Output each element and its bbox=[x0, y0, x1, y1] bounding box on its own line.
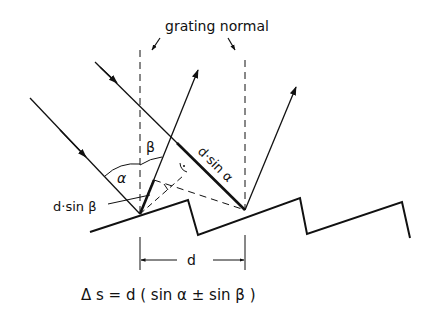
d-label: d bbox=[187, 252, 196, 268]
alpha-label: α bbox=[117, 170, 127, 186]
beta-label: β bbox=[146, 139, 155, 155]
incident-arrow-right-icon bbox=[100, 67, 117, 83]
right-angle-mark-alpha bbox=[180, 163, 187, 172]
grating-diagram: grating normal β α d·sin β d·sin α d Δ s… bbox=[0, 0, 435, 310]
grating-normal-label: grating normal bbox=[165, 18, 269, 34]
incident-arrow-left-icon bbox=[60, 130, 86, 157]
right-angle-dot bbox=[183, 165, 185, 167]
beta-angle-arc bbox=[140, 157, 162, 165]
diffracted-ray-right bbox=[245, 87, 296, 210]
d-sin-alpha-label: d·sin α bbox=[195, 144, 237, 186]
label-pointer-right-icon bbox=[228, 38, 235, 50]
equation: Δ s = d ( sin α ± sin β ) bbox=[81, 286, 256, 304]
grating-profile bbox=[90, 198, 410, 238]
label-pointer-left-icon bbox=[152, 38, 160, 50]
d-sin-beta-label: d·sin β bbox=[53, 199, 96, 214]
